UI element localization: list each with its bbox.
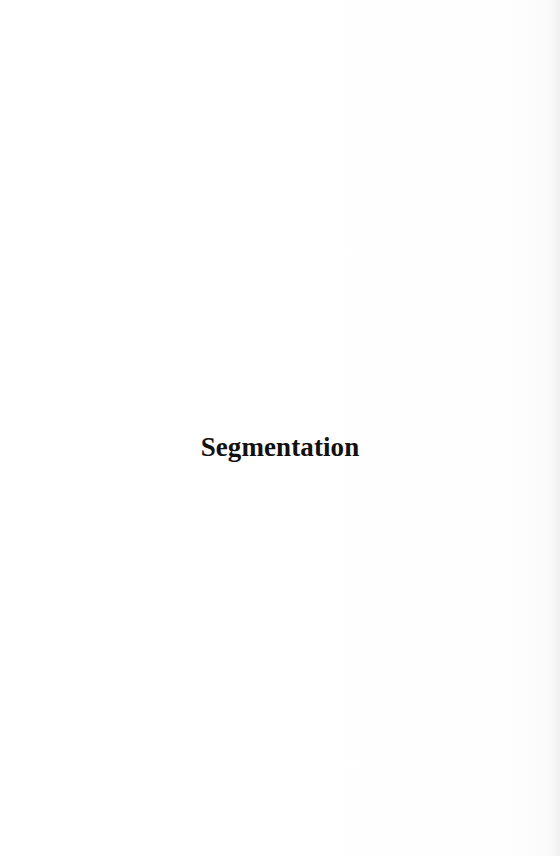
section-title: Segmentation: [0, 430, 560, 464]
document-page: Segmentation: [0, 0, 560, 856]
page-edge-shadow: [552, 0, 560, 856]
